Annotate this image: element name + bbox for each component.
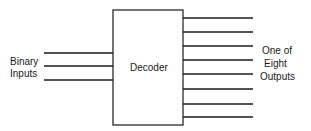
binary-inputs-label-line1: Binary [10,56,38,68]
outputs-label-line3: Outputs [260,71,295,83]
output-lines [183,18,253,117]
input-lines [44,53,113,80]
binary-inputs-label-line2: Inputs [10,68,37,80]
decoder-label: Decoder [130,62,168,74]
outputs-label-line2: Eight [264,58,287,70]
outputs-label-line1: One of [262,45,292,57]
